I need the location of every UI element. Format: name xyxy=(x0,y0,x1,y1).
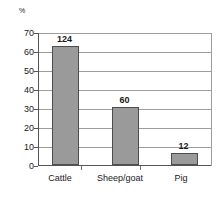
y-tick-label: 30 xyxy=(4,105,34,114)
y-tick-label: 0 xyxy=(4,162,34,171)
x-label-sheep-goat: Sheep/goat xyxy=(87,173,153,184)
bar-value-sheep-goat: 60 xyxy=(105,95,145,105)
x-label-cattle: Cattle xyxy=(32,173,88,184)
bar-chart: % 70 60 50 40 30 20 10 0 124 60 12 xyxy=(0,0,223,198)
x-label-pig: Pig xyxy=(153,173,209,184)
y-tick-label: 40 xyxy=(4,86,34,95)
bar-value-pig: 12 xyxy=(164,141,204,151)
y-axis-tick-labels: 70 60 50 40 30 20 10 0 xyxy=(0,33,34,166)
y-tick-label: 50 xyxy=(4,67,34,76)
bar-pig xyxy=(171,153,198,165)
bar-cattle xyxy=(52,46,79,165)
y-tick-label: 20 xyxy=(4,124,34,133)
x-tick-mark xyxy=(81,166,82,170)
bar-sheep-goat xyxy=(112,107,139,165)
y-tick-label: 70 xyxy=(4,29,34,38)
bar-value-cattle: 124 xyxy=(45,34,85,44)
plot-right-border xyxy=(211,33,212,166)
y-tick-label: 10 xyxy=(4,143,34,152)
y-tick-mark xyxy=(34,166,38,167)
x-tick-mark xyxy=(140,166,141,170)
y-tick-label: 60 xyxy=(4,48,34,57)
y-axis-unit-label: % xyxy=(19,7,25,15)
